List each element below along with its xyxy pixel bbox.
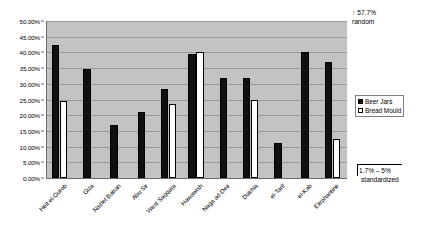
bar-bread-mould (169, 104, 177, 178)
x-axis-tick-label: el-Tarif (268, 182, 286, 200)
y-axis-tick-label: 25.00% (20, 96, 40, 103)
y-axis-tick-label: 40.00% (20, 49, 40, 56)
x-axis-tick-label: Abu Sir (130, 182, 149, 201)
y-axis-tick-mark (41, 83, 44, 84)
y-axis-tick-label: 50.00% (20, 18, 40, 25)
y-axis-tick-label: 45.00% (20, 33, 40, 40)
bar-group (155, 21, 182, 178)
bar-beer-jars (325, 62, 333, 178)
x-axis-tick-label: Elephantine (313, 182, 341, 210)
bar-chart: 0.00%5.00%10.00%15.00%20.00%25.00%30.00%… (0, 0, 433, 236)
y-axis: 0.00%5.00%10.00%15.00%20.00%25.00%30.00%… (0, 21, 44, 179)
y-axis-tick-mark (41, 146, 44, 147)
bar-beer-jars (83, 69, 91, 178)
bar-beer-jars (220, 78, 228, 178)
y-axis-tick-mark (41, 21, 44, 22)
bar-bread-mould (60, 101, 68, 178)
annotation-random-value: 57.7% (357, 9, 376, 16)
bar-bread-mould (333, 139, 341, 178)
bar-beer-jars (243, 78, 251, 178)
bar-beer-jars (161, 89, 169, 178)
x-axis-tick-label: Giza (81, 182, 95, 196)
legend-label-beer-jars: Beer Jars (365, 97, 392, 106)
annotation-standardized-value: 1.7% – 5% (357, 166, 399, 175)
x-axis-tick-label: Nazlet Batran (91, 182, 122, 213)
y-axis-tick-label: 10.00% (20, 143, 40, 150)
bar-group (128, 21, 155, 178)
bar-group (210, 21, 237, 178)
x-axis-tick-label: Hawawish (179, 182, 204, 207)
x-axis-tick-label: el-Kab (296, 182, 313, 199)
y-axis-tick-label: 15.00% (20, 127, 40, 134)
y-axis-tick-label: 5.00% (23, 159, 40, 166)
x-axis-tick-label: Naga ad-Deir (201, 182, 232, 213)
y-axis-tick-mark (41, 115, 44, 116)
y-axis-tick-mark (41, 52, 44, 53)
bar-group (237, 21, 264, 178)
bracket-top-rule (357, 164, 402, 165)
y-axis-tick-label: 0.00% (23, 175, 40, 182)
legend-label-bread-mould: Bread Mould (365, 106, 401, 115)
x-axis-tick-label: Heit el-Gurob (37, 182, 68, 213)
y-axis-tick-mark (41, 178, 44, 179)
bar-beer-jars (138, 112, 146, 178)
bar-series-container (46, 21, 346, 178)
y-axis-tick-mark (41, 99, 44, 100)
bar-bread-mould (196, 52, 204, 178)
bar-beer-jars (301, 52, 309, 178)
y-axis-tick-label: 20.00% (20, 112, 40, 119)
annotation-random-label: random (352, 17, 376, 26)
legend-item-bread-mould: Bread Mould (358, 106, 401, 115)
bar-beer-jars (110, 125, 118, 178)
y-axis-tick-mark (41, 68, 44, 69)
bar-group (319, 21, 346, 178)
y-axis-tick-mark (41, 130, 44, 131)
y-axis-tick-label: 35.00% (20, 65, 40, 72)
legend-item-beer-jars: Beer Jars (358, 97, 401, 106)
bar-group (182, 21, 209, 178)
annotation-standardized: 1.7% – 5% standardized (357, 166, 399, 184)
x-axis-tick-label: West Saqqara (144, 182, 176, 214)
annotation-standardized-label: standardized (357, 175, 399, 184)
up-arrow-icon: ↑ (352, 8, 355, 17)
legend-swatch-bread-mould (358, 108, 363, 113)
bar-group (264, 21, 291, 178)
y-axis-tick-mark (41, 162, 44, 163)
bar-group (46, 21, 73, 178)
x-axis-labels: Heit el-GurobGizaNazlet BatranAbu SirWes… (46, 180, 346, 236)
bar-beer-jars (52, 45, 60, 178)
bar-beer-jars (188, 54, 196, 178)
bracket-side-rule (357, 164, 358, 176)
x-axis-tick-label: Dakhla (240, 182, 258, 200)
bar-group (73, 21, 100, 178)
annotation-random: ↑57.7% random (352, 8, 376, 26)
bar-bread-mould (251, 100, 259, 179)
bar-group (101, 21, 128, 178)
bar-group (291, 21, 318, 178)
chart-legend: Beer Jars Bread Mould (355, 95, 404, 117)
y-axis-tick-label: 30.00% (20, 80, 40, 87)
bar-beer-jars (274, 143, 282, 178)
legend-swatch-beer-jars (358, 99, 363, 104)
y-axis-tick-mark (41, 36, 44, 37)
